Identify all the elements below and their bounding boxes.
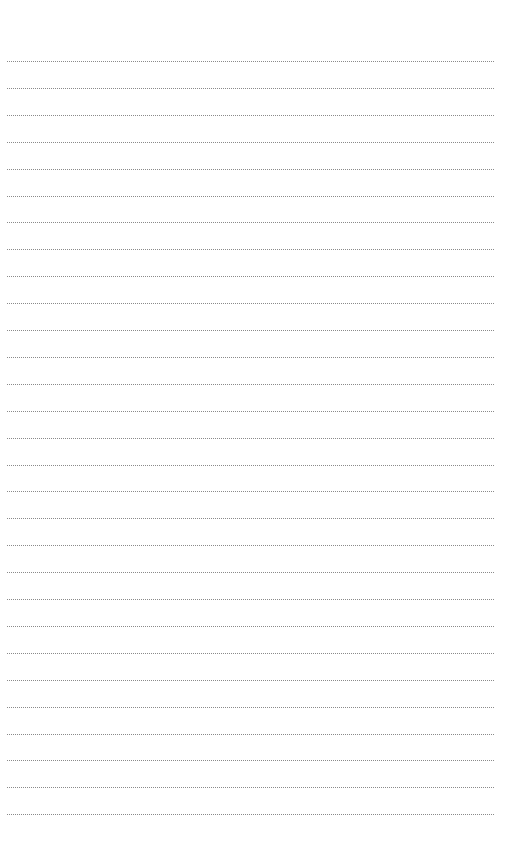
ruled-line	[7, 169, 494, 170]
ruled-line	[7, 384, 494, 385]
ruled-line	[7, 465, 494, 466]
ruled-line	[7, 88, 494, 89]
ruled-line	[7, 142, 494, 143]
ruled-line	[7, 545, 494, 546]
ruled-line	[7, 599, 494, 600]
ruled-line	[7, 760, 494, 761]
ruled-line	[7, 707, 494, 708]
ruled-line	[7, 680, 494, 681]
ruled-line	[7, 303, 494, 304]
ruled-line	[7, 734, 494, 735]
ruled-line	[7, 276, 494, 277]
ruled-line	[7, 626, 494, 627]
ruled-line	[7, 814, 494, 815]
ruled-line	[7, 572, 494, 573]
ruled-line	[7, 438, 494, 439]
ruled-line	[7, 115, 494, 116]
ruled-line	[7, 357, 494, 358]
ruled-line	[7, 787, 494, 788]
ruled-line	[7, 222, 494, 223]
lined-page	[0, 0, 527, 856]
ruled-line	[7, 653, 494, 654]
ruled-line	[7, 330, 494, 331]
ruled-line	[7, 411, 494, 412]
ruled-line	[7, 518, 494, 519]
ruled-line	[7, 196, 494, 197]
ruled-line	[7, 491, 494, 492]
ruled-line	[7, 61, 494, 62]
ruled-line	[7, 249, 494, 250]
